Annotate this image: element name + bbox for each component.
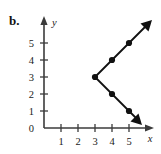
data-point-5-1 <box>126 108 132 114</box>
x-tick-label-4: 4 <box>109 136 115 147</box>
y-tick-labels: 1 2 3 4 5 <box>29 38 35 117</box>
upper-ray-line <box>95 26 146 77</box>
y-tick-label-4: 4 <box>29 55 35 66</box>
y-axis-label: y <box>51 17 57 28</box>
x-axis-label: x <box>147 133 153 144</box>
data-point-vertex-3-3 <box>92 74 98 80</box>
y-axis-arrowhead <box>40 16 47 25</box>
data-point-4-2 <box>109 91 115 97</box>
graph-figure: b. 1 <box>0 0 161 154</box>
y-tick-label-1: 1 <box>29 106 34 117</box>
coordinate-plot: 1 2 3 4 5 0 1 2 3 4 5 y x <box>0 0 161 154</box>
x-tick-label-1: 1 <box>58 136 63 147</box>
origin-label: 0 <box>29 123 34 134</box>
y-tick-label-5: 5 <box>29 38 34 49</box>
y-tick-label-3: 3 <box>29 72 34 83</box>
x-tick-labels: 1 2 3 4 5 <box>58 136 131 147</box>
x-axis-arrowhead <box>145 124 154 131</box>
x-tick-label-3: 3 <box>92 136 97 147</box>
y-tick-label-2: 2 <box>29 89 34 100</box>
data-point-4-4 <box>109 57 115 63</box>
upper-ray-group <box>95 20 152 77</box>
lower-ray-group <box>95 77 142 125</box>
x-tick-label-2: 2 <box>75 136 80 147</box>
data-point-5-5 <box>126 40 132 46</box>
data-points <box>92 40 132 114</box>
x-tick-label-5: 5 <box>126 136 131 147</box>
